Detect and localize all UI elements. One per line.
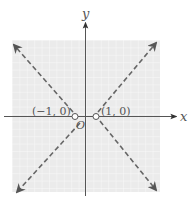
- point-label-right: (1, 0): [101, 106, 131, 117]
- y-axis-label: y: [82, 7, 89, 20]
- open-point-right: [93, 114, 99, 120]
- point-label-left: (−1, 0): [32, 106, 71, 117]
- graph: [0, 0, 188, 203]
- x-axis-label: x: [180, 110, 187, 123]
- origin-label: O: [76, 120, 85, 131]
